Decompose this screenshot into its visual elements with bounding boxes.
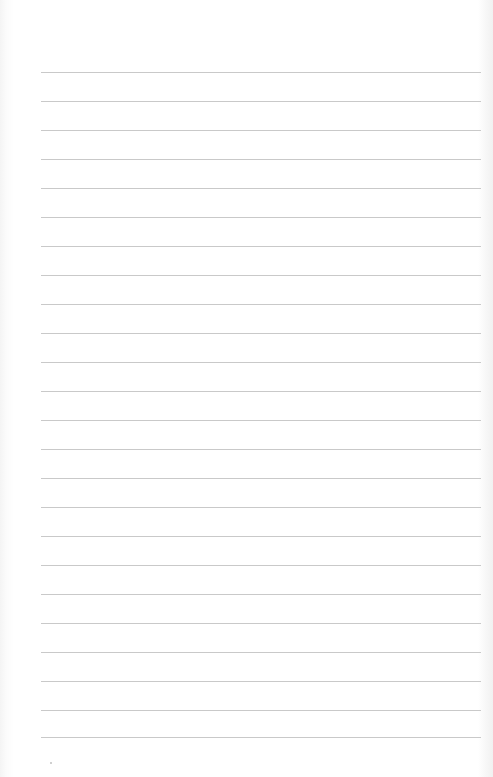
ruled-line: [41, 101, 481, 102]
ruled-line: [41, 217, 481, 218]
ruled-line: [41, 391, 481, 392]
notebook-page: [0, 0, 493, 777]
ruled-line: [41, 478, 481, 479]
ruled-line: [41, 333, 481, 334]
ruled-line: [41, 710, 481, 711]
ruled-line: [41, 681, 481, 682]
ruled-line: [41, 594, 481, 595]
ruled-line: [41, 246, 481, 247]
ruled-line: [41, 304, 481, 305]
ruled-line: [41, 159, 481, 160]
ruled-line: [41, 362, 481, 363]
ruled-line: [41, 737, 481, 738]
ruled-line: [41, 72, 481, 73]
ruled-line: [41, 536, 481, 537]
ruled-line: [41, 130, 481, 131]
paper-speck: [50, 762, 52, 764]
ruled-line: [41, 449, 481, 450]
ruled-line: [41, 507, 481, 508]
ruled-line: [41, 565, 481, 566]
ruled-line: [41, 420, 481, 421]
ruled-line: [41, 623, 481, 624]
ruled-line: [41, 188, 481, 189]
ruled-line: [41, 652, 481, 653]
ruled-line: [41, 275, 481, 276]
